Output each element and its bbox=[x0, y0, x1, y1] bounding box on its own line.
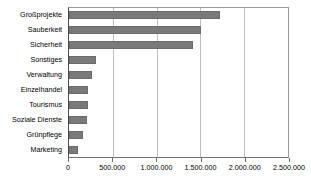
y-axis-label-cell: Verwaltung bbox=[0, 67, 65, 82]
bar bbox=[69, 26, 201, 34]
y-axis-label: Soziale Dienste bbox=[12, 116, 62, 124]
y-axis-label: Verwaltung bbox=[26, 71, 62, 79]
y-axis-label-cell: Grünpflege bbox=[0, 128, 65, 143]
x-axis-ticks bbox=[68, 158, 289, 162]
y-axis-label-cell: Marketing bbox=[0, 143, 65, 158]
bar bbox=[69, 131, 83, 139]
y-axis-label-cell: Sicherheit bbox=[0, 37, 65, 52]
bar bbox=[69, 86, 88, 94]
bar bbox=[69, 146, 78, 154]
y-axis-label-cell: Einzelhandel bbox=[0, 82, 65, 97]
y-axis-label-cell: Soziale Dienste bbox=[0, 113, 65, 128]
bar-row bbox=[69, 38, 288, 53]
x-axis-tick bbox=[201, 158, 202, 162]
bar-row bbox=[69, 53, 288, 68]
y-axis-label-cell: Tourismus bbox=[0, 98, 65, 113]
bar-row bbox=[69, 127, 288, 142]
x-axis-tick bbox=[245, 158, 246, 162]
x-axis-tick-label: 2.000.000 bbox=[229, 163, 261, 172]
y-axis-label-cell: Großprojekte bbox=[0, 7, 65, 22]
x-axis-tick-label: 0 bbox=[66, 163, 70, 172]
x-axis-tick-label: 1.500.000 bbox=[185, 163, 217, 172]
y-axis-label: Sonstiges bbox=[30, 56, 62, 64]
bar-row bbox=[69, 23, 288, 38]
bar bbox=[69, 116, 87, 124]
y-axis-label-cell: Sonstiges bbox=[0, 52, 65, 67]
x-axis-tick bbox=[156, 158, 157, 162]
y-axis-label: Sauberkeit bbox=[28, 26, 62, 34]
x-axis-tick-label: 2.500.000 bbox=[273, 163, 305, 172]
y-axis-label: Einzelhandel bbox=[21, 86, 62, 94]
y-axis-category-labels: GroßprojekteSauberkeitSicherheitSonstige… bbox=[0, 7, 65, 158]
x-axis-tick bbox=[289, 158, 290, 162]
bar-row bbox=[69, 97, 288, 112]
bar-row bbox=[69, 112, 288, 127]
bar-row bbox=[69, 142, 288, 157]
bar-chart: GroßprojekteSauberkeitSicherheitSonstige… bbox=[0, 0, 311, 185]
bar bbox=[69, 41, 193, 49]
bar-row bbox=[69, 8, 288, 23]
y-axis-label: Tourismus bbox=[29, 101, 62, 109]
x-axis-tick-label: 500.000 bbox=[99, 163, 125, 172]
x-axis-tick-labels: 0500.0001.000.0001.500.0002.000.0002.500… bbox=[0, 163, 311, 177]
y-axis-label: Großprojekte bbox=[20, 11, 62, 19]
x-axis-tick bbox=[112, 158, 113, 162]
bar-series bbox=[69, 8, 288, 157]
x-axis-tick-label: 1.000.000 bbox=[140, 163, 172, 172]
bar bbox=[69, 101, 88, 109]
bar-row bbox=[69, 68, 288, 83]
y-axis-label: Sicherheit bbox=[30, 41, 62, 49]
plot-area bbox=[68, 7, 289, 158]
y-axis-label: Grünpflege bbox=[26, 131, 62, 139]
bar bbox=[69, 71, 92, 79]
y-axis-label: Marketing bbox=[30, 146, 62, 154]
y-axis-label-cell: Sauberkeit bbox=[0, 22, 65, 37]
bar bbox=[69, 11, 220, 19]
bar bbox=[69, 56, 96, 64]
bar-row bbox=[69, 83, 288, 98]
x-axis-tick bbox=[68, 158, 69, 162]
